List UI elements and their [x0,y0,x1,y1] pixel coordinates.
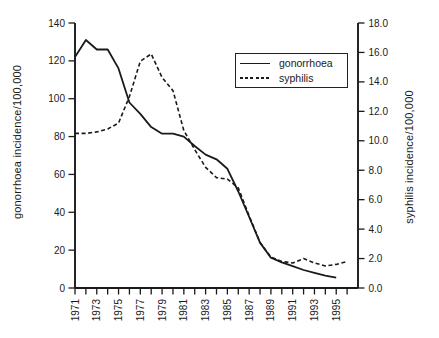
x-axis-tick-label: 1983 [200,299,211,322]
left-axis-title: gonorrhoea incidence/100,000 [11,65,23,219]
right-axis-tick-label: 6.0 [369,194,383,205]
x-axis-tick-label: 1989 [265,299,276,322]
left-axis-tick-label: 0 [59,283,65,294]
right-axis-tick-label: 14.0 [369,76,389,87]
legend-item-syphilis: syphilis [240,73,343,84]
left-axis-tick-label: 60 [54,169,66,180]
legend-label-syphilis: syphilis [279,73,313,84]
x-axis-tick-label: 1975 [113,299,124,322]
chart-figure: 0204060801001201400.02.04.06.08.010.012.… [0,0,439,338]
left-axis-tick-label: 120 [48,55,65,66]
x-axis-tick-label: 1973 [91,299,102,322]
right-axis-tick-label: 4.0 [369,224,383,235]
right-axis-tick-label: 12.0 [369,106,389,117]
right-axis-tick-label: 18.0 [369,18,389,29]
x-axis-tick-label: 1993 [309,299,320,322]
left-axis-tick-label: 20 [54,245,66,256]
dashed-line-sample-icon [240,77,270,79]
right-axis-title: syphilis incidence/100,000 [403,90,415,224]
dual-axis-line-chart: 0204060801001201400.02.04.06.08.010.012.… [0,0,439,338]
x-axis-tick-label: 1977 [135,299,146,322]
x-axis-tick-label: 1971 [70,299,81,322]
right-axis-tick-label: 10.0 [369,135,389,146]
solid-line-sample-icon [240,63,270,64]
right-axis-tick-label: 0.0 [369,283,383,294]
legend: gonorrhoea syphilis [235,53,348,88]
left-axis-tick-label: 100 [48,93,65,104]
legend-label-gonorrhoea: gonorrhoea [279,58,333,69]
legend-item-gonorrhoea: gonorrhoea [240,58,343,69]
x-axis-tick-label: 1991 [287,299,298,322]
left-axis-tick-label: 140 [48,18,65,29]
x-axis-tick-label: 1987 [244,299,255,322]
right-axis-tick-label: 8.0 [369,165,383,176]
x-axis-tick-label: 1981 [178,299,189,322]
left-axis-tick-label: 80 [54,131,66,142]
right-axis-tick-label: 16.0 [369,47,389,58]
x-axis-tick-label: 1985 [222,299,233,322]
x-axis-tick-label: 1979 [157,299,168,322]
left-axis-tick-label: 40 [54,207,66,218]
right-axis-tick-label: 2.0 [369,253,383,264]
x-axis-tick-label: 1995 [331,299,342,322]
